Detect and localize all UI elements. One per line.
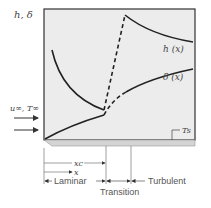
freestream-label: u∞, T∞ — [10, 104, 39, 113]
axis-label: h, δ — [14, 9, 33, 20]
xc-label: xc — [74, 159, 84, 168]
boundary-layer-diagram: h, δ h (x) δ (x) Ts u∞, T∞ xc x Laminar … — [0, 0, 211, 208]
laminar-label: Laminar — [54, 176, 87, 186]
turbulent-label: Turbulent — [148, 176, 186, 186]
delta-curve-label: δ (x) — [163, 72, 184, 82]
transition-label: Transition — [100, 187, 139, 197]
surface-temp-label: Ts — [182, 126, 191, 135]
h-curve-label: h (x) — [163, 44, 184, 54]
flat-plate — [44, 140, 195, 146]
